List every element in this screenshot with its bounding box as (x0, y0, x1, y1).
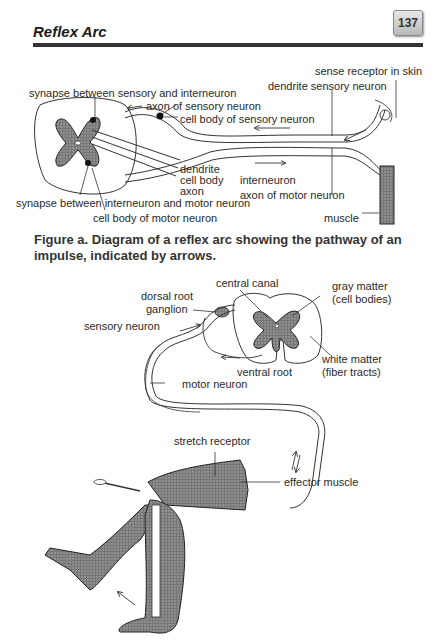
gray-matter-cross-section (253, 311, 299, 351)
label-white-matter: white matter (322, 353, 382, 365)
label-ganglion: ganglion (146, 303, 188, 315)
leg-shape (45, 505, 151, 590)
label-sensory-neuron: sensory neuron (84, 320, 160, 332)
label-gray-matter: gray matter (332, 280, 388, 292)
label-dorsal-root: dorsal root (141, 290, 193, 302)
label-ventral-root: ventral root (237, 366, 292, 378)
label-motor-neuron: motor neuron (182, 378, 247, 390)
label-white-matter-sub: (fiber tracts) (322, 366, 381, 378)
label-central-canal: central canal (216, 277, 278, 289)
label-effector-muscle: effector muscle (284, 476, 358, 488)
label-gray-matter-sub: (cell bodies) (332, 293, 391, 305)
label-stretch-receptor: stretch receptor (174, 435, 250, 447)
spinal-reflex-diagram (0, 0, 441, 644)
